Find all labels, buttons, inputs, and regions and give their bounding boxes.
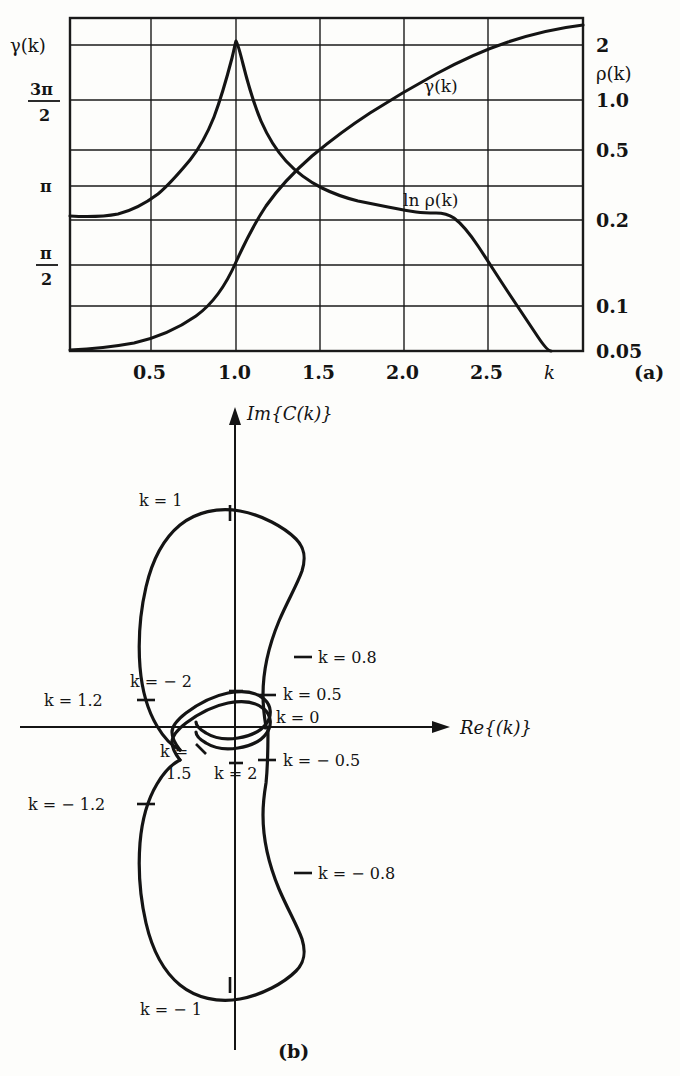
panel-a-horizontal-gridlines [70,45,583,306]
panel-a-left-tick-pi-2-num: π [40,244,52,263]
panel-b-label-k-neg-2: k = − 2 [130,672,192,691]
panel-b-imaginary-axis-title: Im{C(k)} [246,403,333,424]
panel-b-label-k-1: k = 1 [139,491,182,510]
panel-a-left-tick-pi-2-den: 2 [41,270,52,289]
panel-a-left-tick-3pi-2-num: 3π [30,80,53,99]
panel-a-left-axis-title: γ(k) [10,35,46,56]
curve-gamma [70,25,583,350]
figure-container: γ(k) ln ρ(k) γ(k) 3π 2 π π 2 2 ρ(k) 1.0 … [0,0,680,1076]
panel-a-right-tick-0-1: 0.1 [596,295,629,317]
panel-a-x-axis-title: k [544,362,555,383]
panel-b-label-k-1-5-line2: 1.5 [166,764,191,783]
panel-a-x-tick-2-0: 2.0 [386,361,419,383]
panel-b-label-k-0: k = 0 [276,708,319,727]
tick-k-1-5 [196,744,206,754]
panel-b-label-k-0-8: k = 0.8 [318,648,377,667]
panel-b-chart: Im{C(k)} Re{(k)} k = 1 k = 0.8 [0,395,680,1076]
panel-a-right-tick-0-2: 0.2 [596,209,629,231]
panel-a-chart: γ(k) ln ρ(k) γ(k) 3π 2 π π 2 2 ρ(k) 1.0 … [0,0,680,395]
curve-label-ln-rho: ln ρ(k) [403,190,458,210]
panel-a-x-tick-1-0: 1.0 [218,361,251,383]
panel-b-label-k-1-5-line1: k = [160,742,188,761]
panel-a-left-tick-3pi-2: 3π 2 [28,80,60,125]
panel-a-left-tick-pi: π [40,177,52,196]
panel-b-label-k-2: k = 2 [214,764,257,783]
panel-a-plot-frame [70,18,583,351]
panel-b-label-k-neg-1: k = − 1 [140,1000,202,1019]
curve-ln-rho [70,41,551,351]
panel-b-imaginary-axis-arrow [229,407,241,425]
panel-a-x-tick-2-5: 2.5 [470,361,503,383]
panel-a-x-tick-0-5: 0.5 [133,361,166,383]
panel-a-right-tick-0-05: 0.05 [596,340,642,362]
panel-a-right-tick-1-0: 1.0 [596,89,629,111]
panel-b-real-axis-arrow [432,721,450,733]
panel-a-vertical-gridlines [151,18,488,351]
panel-a-x-tick-1-5: 1.5 [302,361,335,383]
panel-a-right-tick-2: 2 [596,34,609,56]
panel-b-label-k-neg-0-8: k = − 0.8 [318,864,395,883]
panel-a-right-axis-title: ρ(k) [596,63,632,84]
panel-b-real-axis-title: Re{(k)} [459,717,532,738]
curve-label-gamma: γ(k) [424,76,458,96]
panel-b-label-k-neg-0-5: k = − 0.5 [283,751,360,770]
panel-b-letter: (b) [278,1040,309,1062]
panel-a-left-tick-pi-2: π 2 [36,244,58,289]
locus-right-branch [265,727,266,728]
panel-b-label-k-neg-1-2: k = − 1.2 [28,795,105,814]
panel-a-right-tick-0-5: 0.5 [596,139,629,161]
panel-b-label-k-0-5: k = 0.5 [283,685,342,704]
panel-a-letter: (a) [634,361,664,383]
panel-b-label-k-1-2: k = 1.2 [44,691,103,710]
panel-a-left-tick-3pi-2-den: 2 [39,106,50,125]
